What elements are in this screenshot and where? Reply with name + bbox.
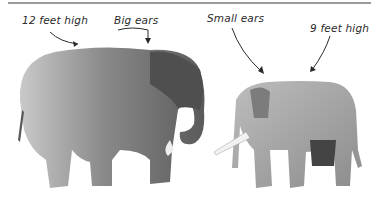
african-elephant xyxy=(18,47,205,188)
asian-elephant xyxy=(214,81,362,188)
elephant-comparison-illustration xyxy=(0,0,377,205)
